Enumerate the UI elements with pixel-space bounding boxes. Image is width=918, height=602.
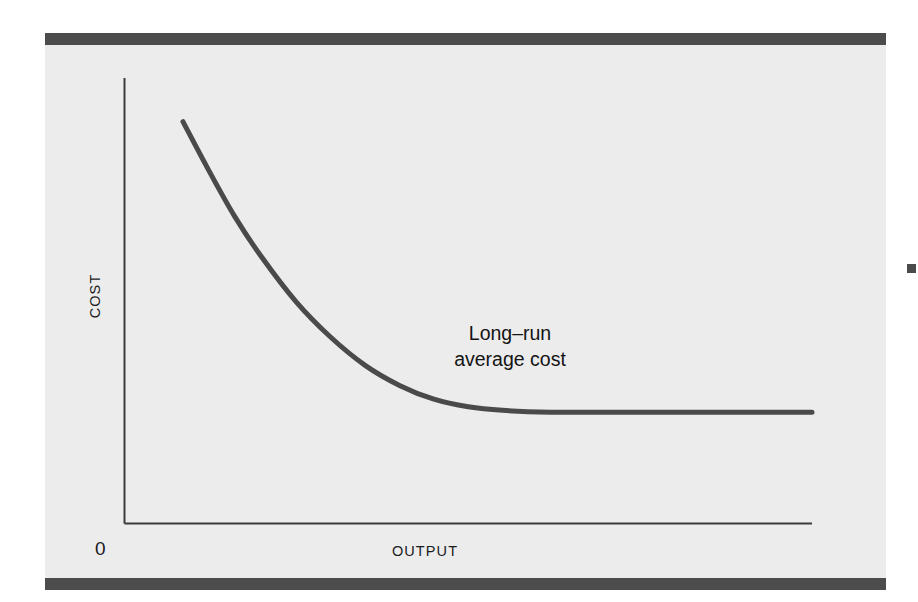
edge-registration-mark (907, 264, 916, 273)
long-run-average-cost-chart (45, 33, 886, 590)
x-axis-label: OUTPUT (45, 543, 805, 559)
origin-label: 0 (95, 538, 106, 560)
curve-annotation-line-1: Long–run (400, 321, 620, 347)
curve-annotation-line-2: average cost (400, 347, 620, 373)
y-axis-label: COST (87, 236, 103, 356)
figure-panel: COST OUTPUT 0 Long–run average cost (45, 33, 886, 590)
plot-area: COST OUTPUT 0 Long–run average cost (45, 33, 886, 590)
curve-annotation: Long–run average cost (400, 321, 620, 372)
